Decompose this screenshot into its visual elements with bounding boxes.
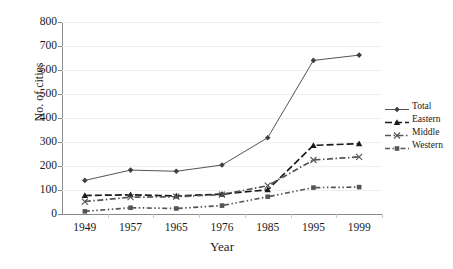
y-tick-label: 100 [40,184,57,196]
y-tick-label: 600 [40,64,57,76]
plot-area [62,22,382,214]
legend-swatch-icon [384,101,410,112]
y-tick-mark [58,142,62,143]
x-tick-mark [382,214,383,218]
data-point [265,135,271,141]
data-point [311,58,317,64]
x-tick-label: 1957 [119,222,142,234]
data-point [357,185,362,190]
legend-label: Total [412,102,431,112]
y-tick-mark [58,22,62,23]
x-tick-mark [245,214,246,218]
series-line [85,55,359,180]
x-axis-title: Year [62,240,382,253]
y-tick-mark [58,214,62,215]
y-tick-mark [58,70,62,71]
legend-label: Western [412,141,443,151]
x-tick-mark [108,214,109,218]
series-eastern [82,140,363,198]
legend-label: Middle [412,128,439,138]
data-point [82,178,88,184]
data-point [174,206,179,211]
legend-item-eastern[interactable]: Eastern [384,114,453,126]
series-container [62,22,382,214]
y-tick-mark [58,166,62,167]
data-point [310,142,316,148]
y-tick-label: 200 [40,160,57,172]
y-tick-mark [58,46,62,47]
data-point [219,162,225,168]
series-middle [82,154,362,205]
x-tick-label: 1985 [256,222,279,234]
legend-item-middle[interactable]: Middle [384,127,453,139]
legend-swatch-icon [384,127,410,138]
y-axis-tick-labels: 0100200300400500600700800 [0,0,57,269]
legend-item-western[interactable]: Western [384,140,453,152]
x-tick-label: 1965 [165,222,188,234]
data-point [311,185,316,190]
data-point [83,209,88,214]
y-tick-label: 700 [40,40,57,52]
data-point [128,167,134,173]
data-point [356,52,362,58]
data-point [173,168,179,174]
series-total [82,52,362,183]
legend-swatch-icon [384,114,410,125]
line-chart: No. of cities 0100200300400500600700800 … [0,0,453,269]
x-tick-label: 1995 [302,222,325,234]
x-tick-mark [199,214,200,218]
y-tick-label: 0 [51,208,57,220]
data-point [220,203,225,208]
y-tick-label: 500 [40,88,57,100]
chart-legend: TotalEasternMiddleWestern [384,101,453,153]
legend-swatch-icon [384,140,410,151]
x-tick-label: 1949 [73,222,96,234]
data-point [128,205,133,210]
y-tick-label: 800 [40,16,57,28]
data-point [265,194,270,199]
y-tick-label: 300 [40,136,57,148]
x-tick-mark [291,214,292,218]
x-tick-mark [153,214,154,218]
legend-item-total[interactable]: Total [384,101,453,113]
y-tick-mark [58,190,62,191]
legend-label: Eastern [412,115,441,125]
x-tick-mark [336,214,337,218]
y-tick-label: 400 [40,112,57,124]
y-tick-mark [58,118,62,119]
x-tick-label: 1976 [211,222,234,234]
x-tick-label: 1999 [348,222,371,234]
x-axis-line [62,214,382,215]
y-tick-mark [58,94,62,95]
series-western [83,185,362,214]
